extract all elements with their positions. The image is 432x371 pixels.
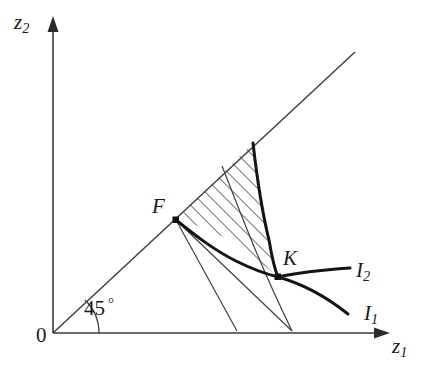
figure-canvas: z2 z1 F K I2 I1 0 45° [0,0,432,371]
point-marker-F [173,217,180,224]
curve-label-I2-base: I [356,258,363,282]
origin-label: 0 [36,325,47,346]
x-axis-label: z1 [392,336,407,359]
curve-label-I1: I1 [364,303,378,326]
angle-label: 45° [84,296,114,319]
curve-label-I2-subscript: 2 [363,268,370,284]
x-axis-label-base: z [392,334,400,358]
curve-label-I1-subscript: 1 [371,311,378,327]
point-marker-K [275,274,282,281]
y-axis-label-subscript: 2 [22,20,29,36]
curve-label-I2: I2 [356,260,370,283]
y-axis-label-base: z [14,10,22,34]
point-label-F: F [152,196,165,217]
point-label-K: K [283,248,297,269]
curve-label-I1-base: I [364,301,371,325]
angle-value: 45 [84,296,105,320]
degree-symbol: ° [108,295,114,311]
x-axis-label-subscript: 1 [400,344,407,360]
y-axis-label: z2 [14,12,29,35]
x-axis-arrowhead [374,328,390,339]
y-axis-arrowhead [48,16,59,32]
